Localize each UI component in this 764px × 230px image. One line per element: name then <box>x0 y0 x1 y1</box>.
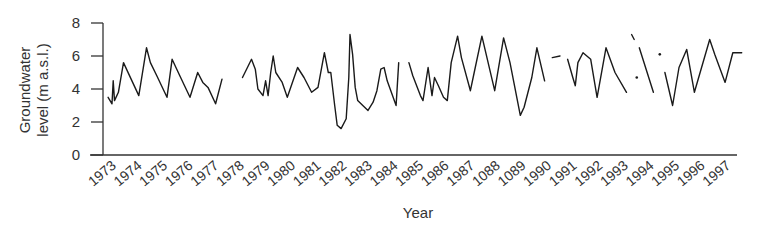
series-line <box>632 35 635 40</box>
data-point <box>635 76 638 79</box>
plot-area <box>108 35 742 129</box>
x-axis: 1973197419751976197719781979198019811982… <box>85 155 737 189</box>
series-line <box>409 36 545 115</box>
groundwater-chart: Groundwater level (m a.s.l.) 02468 19731… <box>0 0 764 230</box>
series-line <box>108 48 222 104</box>
y-tick-label: 4 <box>72 80 80 97</box>
y-axis-title-line2: level (m a.s.l.) <box>34 43 51 136</box>
y-tick-label: 6 <box>72 47 80 64</box>
y-axis-title: Groundwater level (m a.s.l.) <box>16 43 51 136</box>
x-axis-title: Year <box>403 204 433 221</box>
x-tick-label: 1997 <box>699 157 733 189</box>
y-axis-title-line1: Groundwater <box>16 47 33 134</box>
series-line <box>639 48 653 93</box>
y-tick-label: 2 <box>72 113 80 130</box>
y-tick-label: 8 <box>72 14 80 31</box>
data-point <box>659 53 662 56</box>
series-line <box>665 40 742 106</box>
y-axis: 02468 <box>72 14 103 163</box>
y-tick-label: 0 <box>72 146 80 163</box>
series-line <box>568 48 627 98</box>
series-line <box>243 35 399 129</box>
series-line <box>552 56 560 58</box>
